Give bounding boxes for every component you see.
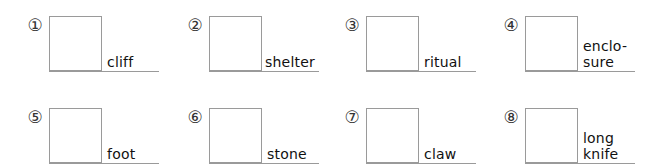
underline	[209, 71, 319, 72]
item-word: long knife	[583, 130, 618, 162]
item-number: ⑥	[186, 108, 204, 126]
item-number: ⑦	[343, 108, 361, 126]
answer-box[interactable]	[209, 16, 262, 71]
item-number: ①	[26, 16, 44, 34]
underline	[49, 163, 159, 164]
underline	[525, 163, 635, 164]
item-number: ③	[343, 16, 361, 34]
answer-box[interactable]	[366, 108, 419, 163]
answer-box[interactable]	[525, 108, 578, 163]
underline	[366, 71, 476, 72]
underline	[525, 71, 635, 72]
answer-box[interactable]	[366, 16, 419, 71]
underline	[209, 163, 319, 164]
item-number: ②	[186, 16, 204, 34]
item-word: ritual	[424, 54, 462, 70]
item-1: ① cliff	[26, 16, 186, 76]
answer-box[interactable]	[525, 16, 578, 71]
item-number: ④	[502, 16, 520, 34]
item-4: ④ enclo- sure	[502, 16, 658, 76]
item-word: foot	[107, 146, 135, 162]
item-number: ⑤	[26, 108, 44, 126]
item-7: ⑦ claw	[343, 108, 503, 166]
item-number: ⑧	[502, 108, 520, 126]
item-2: ② shelter	[186, 16, 346, 76]
item-8: ⑧ long knife	[502, 108, 658, 166]
item-word: enclo- sure	[583, 38, 627, 70]
answer-box[interactable]	[49, 108, 102, 163]
underline	[49, 71, 159, 72]
item-word: shelter	[265, 54, 315, 70]
item-3: ③ ritual	[343, 16, 503, 76]
answer-box[interactable]	[49, 16, 102, 71]
item-word: cliff	[107, 54, 133, 70]
item-6: ⑥ stone	[186, 108, 346, 166]
item-word: stone	[267, 146, 307, 162]
underline	[366, 163, 476, 164]
item-5: ⑤ foot	[26, 108, 186, 166]
answer-box[interactable]	[209, 108, 262, 163]
item-word: claw	[424, 146, 456, 162]
